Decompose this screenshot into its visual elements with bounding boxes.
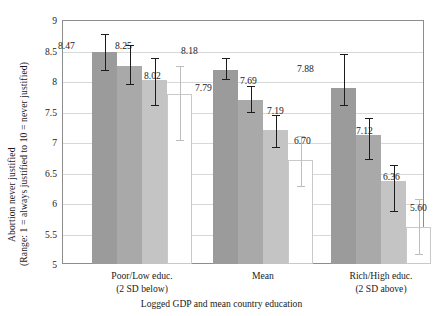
error-bar [226,58,227,80]
bar-value-label: 8.02 [144,70,161,81]
error-bar-cap-bottom [390,211,398,212]
error-bar [130,45,131,85]
x-axis-category-sublabel: (2 SD below) [82,283,202,296]
bar [117,66,142,264]
x-axis-category-name: Poor/Low educ. [82,270,202,283]
error-bar-cap-bottom [101,70,109,71]
error-bar-cap-top [390,165,398,166]
y-axis-tick-label: 7.5 [17,106,57,117]
error-bar-cap-bottom [297,186,305,187]
error-bar-cap-top [415,199,423,200]
error-bar-cap-bottom [365,159,373,160]
chart-figure: Abortion never justified (Range: 1 = alw… [0,0,443,316]
x-axis-category-label: Poor/Low educ.(2 SD below) [82,270,202,295]
error-bar-cap-top [151,58,159,59]
error-bar-cap-bottom [272,147,280,148]
y-axis-tick-label: 5.5 [17,228,57,239]
bar [142,80,167,264]
x-axis-category-name: Mean [203,270,323,283]
error-bar [155,58,156,106]
y-axis-tick-label: 7 [17,137,57,148]
error-bar-cap-top [222,58,230,59]
bar-value-label: 6.36 [383,171,400,182]
error-bar [251,86,252,113]
error-bar [105,34,106,71]
error-bar-cap-bottom [340,105,348,106]
x-axis-category-sublabel: (2 SD above) [321,283,441,296]
error-bar [276,115,277,148]
error-bar-cap-top [101,34,109,35]
error-bar-cap-top [247,86,255,87]
error-bar-cap-bottom [176,140,184,141]
y-axis-tick-label: 9 [17,15,57,26]
bar-value-label: 8.25 [115,40,132,51]
y-axis-tick-label: 5 [17,259,57,270]
bar-value-label: 8.18 [181,45,198,56]
y-axis-tick-label: 8.5 [17,45,57,56]
bar-value-label: 7.12 [356,125,373,136]
error-bar-cap-bottom [151,105,159,106]
bar [238,100,263,264]
bar [263,130,288,264]
gridline [63,52,423,53]
x-axis-category-label: Mean [203,270,323,283]
bar [213,70,238,264]
bar-value-label: 7.19 [267,105,284,116]
bar-value-label: 7.79 [195,82,212,93]
bar [92,52,117,264]
y-axis-tick-label: 8 [17,76,57,87]
bar-value-label: 8.47 [58,40,75,51]
error-bar-cap-top [340,54,348,55]
bar-value-label: 5.60 [410,202,427,213]
error-bar-cap-bottom [126,84,134,85]
error-bar-cap-bottom [415,254,423,255]
error-bar-cap-top [176,66,184,67]
bar-value-label: 7.69 [240,75,257,86]
y-axis-title-line1: Abortion never justified [6,147,17,242]
bar-value-label: 7.88 [297,63,314,74]
bar [331,88,356,264]
x-axis-category-name: Rich/High educ. [321,270,441,283]
y-axis-tick-label: 6.5 [17,167,57,178]
error-bar [344,54,345,106]
error-bar-cap-top [365,118,373,119]
error-bar [180,66,181,142]
error-bar-cap-bottom [222,79,230,80]
x-axis-title: Logged GDP and mean country education [0,298,443,309]
x-axis-category-label: Rich/High educ.(2 SD above) [321,270,441,295]
bar-value-label: 6.70 [294,135,311,146]
y-axis-tick-label: 6 [17,198,57,209]
error-bar-cap-bottom [247,112,255,113]
